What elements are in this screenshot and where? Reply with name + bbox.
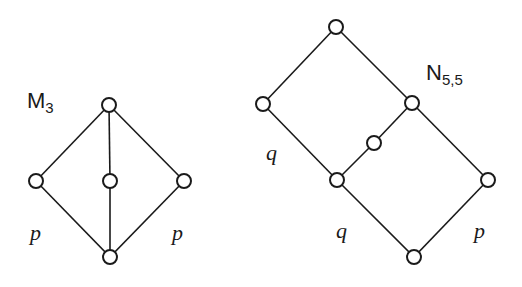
- n55-title: N5,5: [426, 60, 463, 88]
- m3-edge: [109, 105, 184, 181]
- n55-lattice: N5,5 q q p: [256, 20, 495, 264]
- m3-edge: [36, 105, 109, 181]
- n55-node-far-right: [481, 173, 495, 187]
- m3-node-middle: [103, 174, 117, 188]
- m3-title: M3: [27, 88, 54, 116]
- n55-title-main: N: [426, 60, 442, 85]
- m3-node-top: [102, 98, 116, 112]
- n55-edge: [374, 103, 412, 143]
- n55-node-bottom: [407, 250, 421, 264]
- n55-node-mid: [367, 136, 381, 150]
- n55-node-left: [256, 97, 270, 111]
- m3-edge: [110, 181, 184, 257]
- m3-label-left-p: p: [28, 220, 41, 245]
- lattice-diagrams: M3 p p N5,5 q q p: [0, 0, 522, 287]
- n55-node-center: [330, 173, 344, 187]
- m3-node-left: [29, 174, 43, 188]
- n55-edge: [263, 27, 336, 104]
- n55-edge: [336, 27, 412, 103]
- n55-edge: [337, 180, 414, 257]
- m3-lattice: M3 p p: [27, 88, 191, 264]
- n55-label-q-lower: q: [336, 218, 347, 243]
- m3-edge: [36, 181, 110, 257]
- n55-node-top: [329, 20, 343, 34]
- n55-edge: [412, 103, 488, 180]
- n55-node-upper-right: [405, 96, 419, 110]
- m3-node-bottom: [103, 250, 117, 264]
- m3-title-sub: 3: [45, 99, 53, 116]
- m3-edge: [109, 105, 110, 181]
- m3-label-right-p: p: [170, 220, 183, 245]
- n55-label-p: p: [472, 218, 485, 243]
- m3-node-right: [177, 174, 191, 188]
- n55-label-q-upper: q: [266, 140, 277, 165]
- n55-title-sub: 5,5: [442, 71, 463, 88]
- m3-title-main: M: [27, 88, 45, 113]
